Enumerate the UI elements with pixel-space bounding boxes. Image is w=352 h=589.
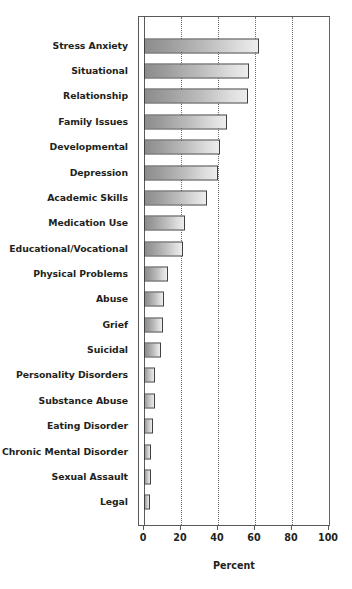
category-label: Eating Disorder bbox=[47, 420, 128, 431]
category-label: Academic Skills bbox=[47, 191, 128, 202]
category-label: Personality Disorders bbox=[16, 369, 128, 380]
x-tick-mark-40 bbox=[217, 526, 218, 530]
x-tick-label: 100 bbox=[318, 532, 338, 543]
bar bbox=[144, 469, 151, 484]
x-axis-ticks: 020406080100 bbox=[138, 526, 330, 548]
bar bbox=[144, 267, 168, 282]
category-label: Grief bbox=[102, 318, 128, 329]
category-label: Sexual Assault bbox=[52, 470, 128, 481]
bar bbox=[144, 495, 150, 510]
bar bbox=[144, 368, 155, 383]
category-label: Chronic Mental Disorder bbox=[2, 445, 128, 456]
x-tick-label: 40 bbox=[210, 532, 223, 543]
bar bbox=[144, 216, 185, 231]
bar bbox=[144, 292, 164, 307]
gridline-60 bbox=[255, 17, 256, 525]
category-label: Medication Use bbox=[48, 217, 128, 228]
gridline-100 bbox=[329, 17, 330, 525]
bar-chart: Stress AnxietySituationalRelationshipFam… bbox=[0, 0, 352, 589]
category-label: Developmental bbox=[50, 141, 128, 152]
gridline-80 bbox=[292, 17, 293, 525]
bar bbox=[144, 165, 218, 180]
category-label: Family Issues bbox=[58, 115, 128, 126]
x-tick-mark-80 bbox=[291, 526, 292, 530]
x-tick-mark-0 bbox=[143, 526, 144, 530]
category-label: Suicidal bbox=[87, 344, 128, 355]
bar bbox=[144, 64, 249, 79]
x-tick-label: 0 bbox=[140, 532, 147, 543]
bar bbox=[144, 343, 161, 358]
x-tick-label: 60 bbox=[247, 532, 260, 543]
x-tick-label: 80 bbox=[284, 532, 297, 543]
bar bbox=[144, 241, 183, 256]
plot-inner bbox=[139, 17, 329, 525]
bar bbox=[144, 419, 153, 434]
category-label: Stress Anxiety bbox=[53, 39, 128, 50]
plot-area bbox=[138, 16, 330, 526]
category-label: Depression bbox=[70, 166, 128, 177]
bar bbox=[144, 393, 155, 408]
bar bbox=[144, 140, 220, 155]
category-axis-labels: Stress AnxietySituationalRelationshipFam… bbox=[0, 16, 134, 526]
bar bbox=[144, 89, 248, 104]
category-label: Educational/Vocational bbox=[9, 242, 128, 253]
x-tick-mark-20 bbox=[180, 526, 181, 530]
category-label: Legal bbox=[100, 496, 128, 507]
bar bbox=[144, 114, 227, 129]
x-axis-title: Percent bbox=[138, 560, 330, 571]
category-label: Situational bbox=[71, 65, 128, 76]
x-tick-label: 20 bbox=[173, 532, 186, 543]
bar bbox=[144, 38, 259, 53]
bar bbox=[144, 190, 207, 205]
category-label: Physical Problems bbox=[33, 268, 128, 279]
bar bbox=[144, 317, 163, 332]
category-label: Abuse bbox=[96, 293, 128, 304]
x-tick-mark-100 bbox=[328, 526, 329, 530]
category-label: Relationship bbox=[63, 90, 128, 101]
x-tick-mark-60 bbox=[254, 526, 255, 530]
bar bbox=[144, 444, 151, 459]
category-label: Substance Abuse bbox=[39, 394, 128, 405]
